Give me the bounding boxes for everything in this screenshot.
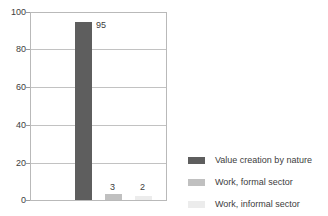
legend-swatch-icon: [188, 157, 205, 164]
legend-item-label: Value creation by nature: [215, 155, 312, 165]
y-tick-label: 20: [2, 159, 26, 168]
legend-item-work-informal-sector[interactable]: Work, informal sector: [188, 193, 328, 215]
legend-swatch-icon: [188, 179, 205, 186]
bar-work-informal-sector[interactable]: [135, 196, 152, 200]
legend-item-work-formal-sector[interactable]: Work, formal sector: [188, 171, 328, 193]
plot-area: 95 3 2: [30, 12, 167, 201]
bar-value-label: 2: [140, 183, 145, 192]
gridline: [31, 87, 166, 88]
gridline: [31, 125, 166, 126]
y-tick-label: 40: [2, 121, 26, 130]
bar-value-label: 95: [96, 21, 106, 30]
legend-item-label: Work, informal sector: [215, 199, 300, 209]
bar-chart-figure: 100 80 60 40 20 0 95 3 2 Value creation …: [0, 0, 328, 216]
gridline: [31, 49, 166, 50]
legend-item-label: Work, formal sector: [215, 177, 293, 187]
y-tick-label: 100: [2, 8, 26, 17]
legend-item-value-creation-by-nature[interactable]: Value creation by nature: [188, 149, 328, 171]
bar-work-formal-sector[interactable]: [105, 194, 122, 200]
y-tick-label: 80: [2, 45, 26, 54]
bar-value-label: 3: [110, 183, 115, 192]
chart-legend: Value creation by nature Work, formal se…: [188, 149, 328, 215]
gridline: [31, 163, 166, 164]
y-tick-label: 0: [2, 196, 26, 205]
y-tick-label: 60: [2, 83, 26, 92]
legend-swatch-icon: [188, 201, 205, 208]
bar-value-creation-by-nature[interactable]: [75, 22, 92, 200]
